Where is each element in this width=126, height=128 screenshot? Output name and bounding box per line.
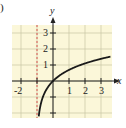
y-axis-arrow-icon	[51, 17, 56, 23]
grid-background	[12, 25, 112, 118]
x-tick-label: 3	[99, 86, 104, 96]
y-tick-label: 3	[43, 28, 48, 38]
x-tick-label: 1	[67, 86, 72, 96]
y-axis-label: y	[50, 6, 54, 16]
x-axis-label: x	[117, 76, 121, 86]
x-tick-label: -2	[14, 86, 22, 96]
y-tick-label: 1	[43, 60, 48, 70]
x-tick-label: 2	[83, 86, 88, 96]
function-graph	[0, 0, 126, 128]
y-tick-label: 2	[43, 44, 48, 54]
